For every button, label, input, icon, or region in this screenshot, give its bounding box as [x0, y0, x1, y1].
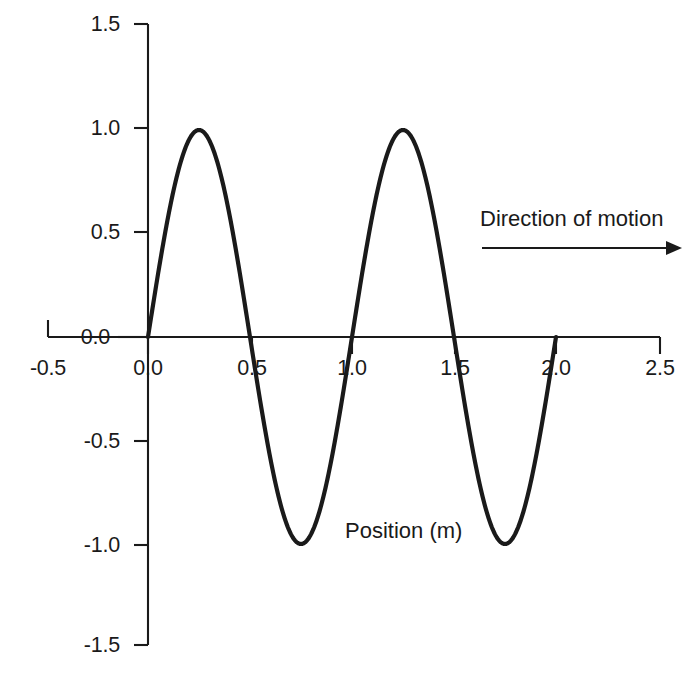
y-tick-label-0.0: 0.0: [62, 325, 110, 350]
wave-diagram-figure: 1.5 1.0 0.5 0.0 -0.5 -1.0 -1.5 -0.5 0.0 …: [0, 0, 692, 687]
x-tick-label-0.5: 0.5: [237, 356, 266, 381]
y-tick-label-1.5: 1.5: [72, 12, 120, 37]
direction-of-motion-label: Direction of motion: [480, 206, 663, 232]
x-tick-label-1.0: 1.0: [337, 356, 366, 381]
y-tick-label-0.5: 0.5: [72, 220, 120, 245]
y-tick-label--1.0: -1.0: [62, 533, 120, 558]
x-tick-label-0.0: 0.0: [133, 356, 162, 381]
x-tick-label--0.5: -0.5: [30, 356, 66, 381]
position-axis-label: Position (m): [345, 518, 462, 544]
y-tick-label--1.5: -1.5: [62, 633, 120, 658]
direction-arrow-head: [666, 241, 682, 255]
x-tick-label-2.5: 2.5: [645, 356, 674, 381]
y-tick-label-1.0: 1.0: [72, 116, 120, 141]
y-tick-label--0.5: -0.5: [62, 429, 120, 454]
x-tick-label-1.5: 1.5: [440, 356, 469, 381]
x-tick-label-2.0: 2.0: [541, 356, 570, 381]
